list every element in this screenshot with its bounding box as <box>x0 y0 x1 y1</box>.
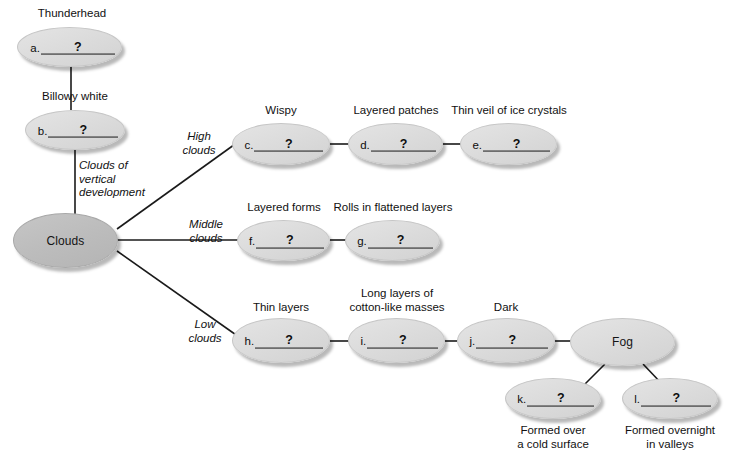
node-b-blank[interactable]: ? <box>48 124 118 138</box>
node-a-question-mark: ? <box>41 40 115 53</box>
node-f-letter: f. <box>249 236 255 249</box>
caption-thunderhead: Thunderhead <box>22 7 122 21</box>
node-a-blank[interactable]: ? <box>41 41 115 55</box>
node-a[interactable]: a. ? <box>17 27 122 67</box>
caption-layered-patches: Layered patches <box>341 104 451 118</box>
caption-thin-veil-of-ice-crystals: Thin veil of ice crystals <box>440 104 578 118</box>
node-i-question-mark: ? <box>367 334 438 347</box>
node-d-letter: d. <box>360 139 370 152</box>
node-l-question-mark: ? <box>641 392 711 405</box>
node-h[interactable]: h. ? <box>232 318 330 363</box>
node-l-blank[interactable]: ? <box>641 392 711 406</box>
node-e-question-mark: ? <box>483 137 550 150</box>
node-l[interactable]: l. ? <box>622 378 718 419</box>
node-i-blank[interactable]: ? <box>367 334 438 348</box>
node-f[interactable]: f. ? <box>237 220 330 261</box>
node-j[interactable]: j. ? <box>457 318 555 363</box>
node-j-letter: j. <box>470 336 476 349</box>
node-e-letter: e. <box>472 139 482 152</box>
caption-wispy: Wispy <box>231 104 331 118</box>
node-c-letter: c. <box>245 139 254 152</box>
node-k-letter: k. <box>517 394 526 407</box>
node-d[interactable]: d. ? <box>348 123 443 165</box>
caption-layered-forms: Layered forms <box>236 201 332 215</box>
caption-formed-over-a-cold-surface: Formed over a cold surface <box>493 424 613 451</box>
node-b-question-mark: ? <box>48 123 118 136</box>
node-c-blank[interactable]: ? <box>254 138 323 152</box>
node-fog-label: Fog <box>571 335 674 349</box>
node-e[interactable]: e. ? <box>460 123 557 165</box>
node-j-question-mark: ? <box>476 334 548 347</box>
caption-dark: Dark <box>457 301 555 315</box>
node-f-question-mark: ? <box>256 234 323 247</box>
node-g-question-mark: ? <box>368 234 434 247</box>
caption-long-layers-of-cotton-like-masses: Long layers of cotton-like masses <box>337 287 457 314</box>
node-d-question-mark: ? <box>371 137 437 150</box>
node-b[interactable]: b. ? <box>25 110 125 150</box>
caption-thin-layers: Thin layers <box>232 301 330 315</box>
branch-label-middle-clouds: Middle clouds <box>175 218 237 245</box>
node-fog[interactable]: Fog <box>570 318 675 366</box>
branch-label-high-clouds: High clouds <box>168 130 230 157</box>
node-f-blank[interactable]: ? <box>256 234 323 248</box>
node-g-letter: g. <box>357 236 367 249</box>
node-h-blank[interactable]: ? <box>255 334 323 348</box>
node-l-letter: l. <box>634 394 640 407</box>
node-i-letter: i. <box>360 336 366 349</box>
branch-label-low-clouds: Low clouds <box>176 318 234 345</box>
caption-billowy-white: Billowy white <box>25 90 125 104</box>
node-c[interactable]: c. ? <box>232 123 330 165</box>
branch-label-vertical-development: Clouds of vertical development <box>79 159 145 200</box>
node-clouds-root[interactable]: Clouds <box>13 213 118 268</box>
node-g[interactable]: g. ? <box>345 220 440 261</box>
node-h-letter: h. <box>245 336 255 349</box>
node-clouds-label: Clouds <box>14 234 117 248</box>
node-g-blank[interactable]: ? <box>368 234 434 248</box>
caption-rolls-in-flattened-layers: Rolls in flattened layers <box>331 201 455 215</box>
node-j-blank[interactable]: ? <box>476 334 548 348</box>
node-h-question-mark: ? <box>255 334 323 347</box>
cloud-classification-diagram: Thunderhead a. ? Billowy white b. ? Clou… <box>0 0 736 467</box>
caption-formed-overnight-in-valleys: Formed overnight in valleys <box>610 424 730 451</box>
node-i[interactable]: i. ? <box>348 318 445 363</box>
node-c-question-mark: ? <box>254 137 323 150</box>
node-k[interactable]: k. ? <box>505 378 601 419</box>
node-k-blank[interactable]: ? <box>527 392 594 406</box>
node-e-blank[interactable]: ? <box>483 138 550 152</box>
node-d-blank[interactable]: ? <box>371 138 437 152</box>
node-k-question-mark: ? <box>527 392 594 405</box>
node-b-letter: b. <box>38 125 48 138</box>
node-a-letter: a. <box>30 42 40 55</box>
connector-fog-to-k <box>584 364 605 385</box>
